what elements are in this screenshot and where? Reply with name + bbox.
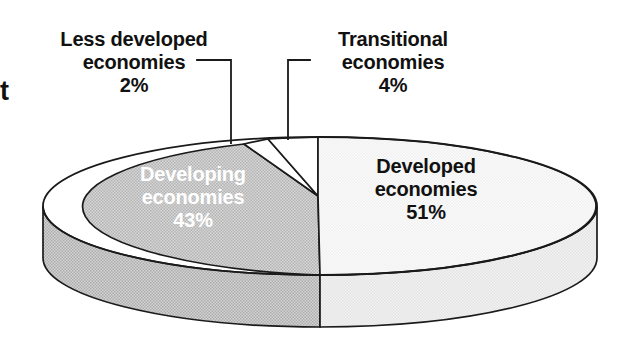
callout-label-less-developed: Less developed economies 2% [28, 28, 240, 98]
slice-developing-value: 43% [110, 209, 276, 232]
cropped-edge-text-fragment: t [0, 78, 9, 105]
chart-canvas: Less developed economies 2% Transitional… [0, 0, 624, 345]
callout-transitional-line2: economies [300, 51, 486, 74]
slice-developed-line1: Developed [338, 155, 514, 178]
slice-label-developing: Developing economies 43% [110, 163, 276, 233]
slice-developed-value: 51% [338, 201, 514, 224]
slice-developing-line2: economies [110, 186, 276, 209]
callout-less-developed-value: 2% [28, 74, 240, 97]
callout-less-developed-line2: economies [28, 51, 240, 74]
callout-label-transitional: Transitional economies 4% [300, 28, 486, 98]
callout-less-developed-line1: Less developed [28, 28, 240, 51]
slice-developed-line2: economies [338, 178, 514, 201]
slice-developing-line1: Developing [110, 163, 276, 186]
callout-transitional-value: 4% [300, 74, 486, 97]
callout-transitional-line1: Transitional [300, 28, 486, 51]
slice-label-developed: Developed economies 51% [338, 155, 514, 225]
